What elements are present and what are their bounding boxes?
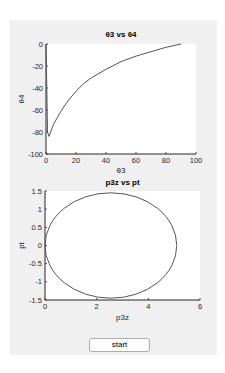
chart-title: θ3 vs θ4 [106,30,137,39]
x-tick-label: 80 [162,156,170,165]
x-tick-label: 6 [198,302,202,311]
y-tick-label: -0.5 [29,259,42,268]
chart-title: p3z vs pt [105,178,140,187]
y-tick-label: -1.5 [29,296,42,305]
x-tick-label: 0 [44,156,48,165]
x-tick-label: 40 [102,156,110,165]
y-axis-label: θ4 [17,94,26,103]
x-tick-label: 20 [72,156,80,165]
y-tick-label: -1 [35,277,42,286]
y-tick-label: 0 [38,241,42,250]
x-tick-label: 100 [190,156,203,165]
plot-area [46,44,196,154]
charts-canvas: 0204060801000-20-40-60-80-100θ3 vs θ4θ3θ… [0,0,225,373]
y-tick-label: -40 [32,84,43,93]
y-tick-label: 1 [38,205,42,214]
y-tick-label: -100 [28,150,43,159]
x-tick-label: 0 [43,302,47,311]
y-tick-label: 0 [39,40,43,49]
y-tick-label: -20 [32,62,43,71]
y-tick-label: -80 [32,128,43,137]
y-tick-label: 1.5 [32,187,42,196]
y-tick-label: 0.5 [32,223,42,232]
y-axis-label: pt [17,241,26,248]
x-axis-label: p3z [116,313,129,322]
x-axis-label: θ3 [117,166,126,175]
start-button[interactable]: start [89,338,150,352]
x-tick-label: 60 [132,156,140,165]
y-tick-label: -60 [32,106,43,115]
x-tick-label: 2 [95,302,99,311]
x-tick-label: 4 [146,302,150,311]
